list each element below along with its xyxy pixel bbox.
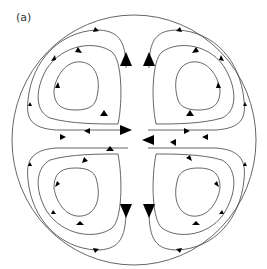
arrow-icon xyxy=(219,55,224,61)
arrow-icon xyxy=(184,128,190,134)
arrow-icon xyxy=(186,155,192,161)
arrow-icon xyxy=(28,102,32,106)
arrow-icon xyxy=(51,55,56,61)
arrow-icon xyxy=(82,157,88,163)
cell-bottom-left xyxy=(28,134,128,253)
arrow-icon xyxy=(214,181,219,187)
arrow-icon xyxy=(176,27,182,32)
arrow-icon xyxy=(176,248,182,253)
large-arrow-up-right-icon xyxy=(143,52,155,66)
arrow-icon xyxy=(219,210,224,214)
arrow-icon xyxy=(76,221,84,225)
arrow-icon xyxy=(106,146,114,151)
arrow-icon xyxy=(192,221,200,225)
arrow-icon xyxy=(93,27,99,32)
large-arrow-down-left-icon xyxy=(120,204,132,218)
arrow-icon xyxy=(51,210,56,214)
cell-top-right xyxy=(148,27,247,134)
arrow-icon xyxy=(243,102,247,106)
cell-top-left xyxy=(28,27,128,134)
arrow-icon xyxy=(170,139,176,146)
arrow-icon xyxy=(60,134,66,140)
arrow-icon xyxy=(100,110,108,116)
arrow-icon xyxy=(93,248,99,253)
large-arrow-right-midline-icon xyxy=(120,125,132,135)
arrow-icon xyxy=(186,110,194,116)
arrow-icon xyxy=(202,134,208,140)
large-arrow-down-right-icon xyxy=(143,204,155,218)
cell-bottom-right xyxy=(148,134,247,253)
large-arrow-up-left-icon xyxy=(120,52,132,66)
streamline-diagram xyxy=(0,0,267,269)
arrow-icon xyxy=(55,181,60,187)
large-arrow-left-midline-icon xyxy=(142,135,154,145)
arrow-icon xyxy=(84,128,90,134)
